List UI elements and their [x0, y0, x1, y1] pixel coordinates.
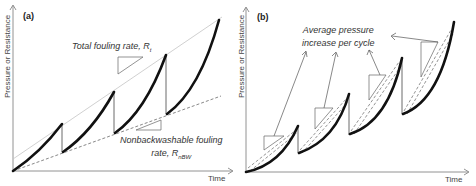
- average-pressure-increase-label: Average pressure increase per cycle: [302, 24, 375, 50]
- panel-a-tag: (a): [23, 11, 34, 21]
- panel-b-tag: (b): [257, 12, 269, 22]
- panel-b-y-axis-label: Pressure or Resistance: [237, 15, 246, 98]
- panel-a-x-axis-label: Time: [208, 174, 225, 183]
- panel-a: (a) Pressure or Resistance Time Total fo…: [0, 0, 238, 186]
- total-fouling-rate-label: Total fouling rate, Rt: [72, 40, 151, 57]
- panel-b-x-axis-label: Time: [445, 175, 462, 184]
- panel-b: (b) Pressure or Resistance Time Average …: [236, 0, 476, 186]
- panel-a-y-axis-label: Pressure or Resistance: [3, 15, 12, 98]
- nbw-rate-triangle: [136, 120, 161, 130]
- total-rate-triangle: [118, 57, 143, 74]
- nbw-fouling-rate-label: Nonbackwashable fouling rate, RnBW: [120, 134, 223, 164]
